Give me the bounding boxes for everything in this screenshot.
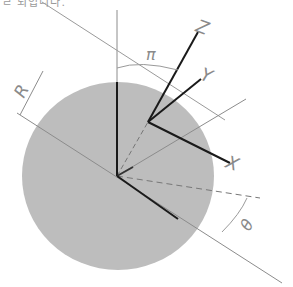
- coordinate-diagram: R π θ Z Y X: [0, 0, 293, 287]
- pi-label: π: [146, 45, 156, 64]
- y-axis-label: Y: [198, 63, 217, 87]
- x-axis-label: X: [222, 151, 242, 176]
- z-axis-label: Z: [192, 15, 212, 40]
- theta-label: θ: [236, 216, 257, 234]
- pi-angle-arc: [117, 64, 178, 70]
